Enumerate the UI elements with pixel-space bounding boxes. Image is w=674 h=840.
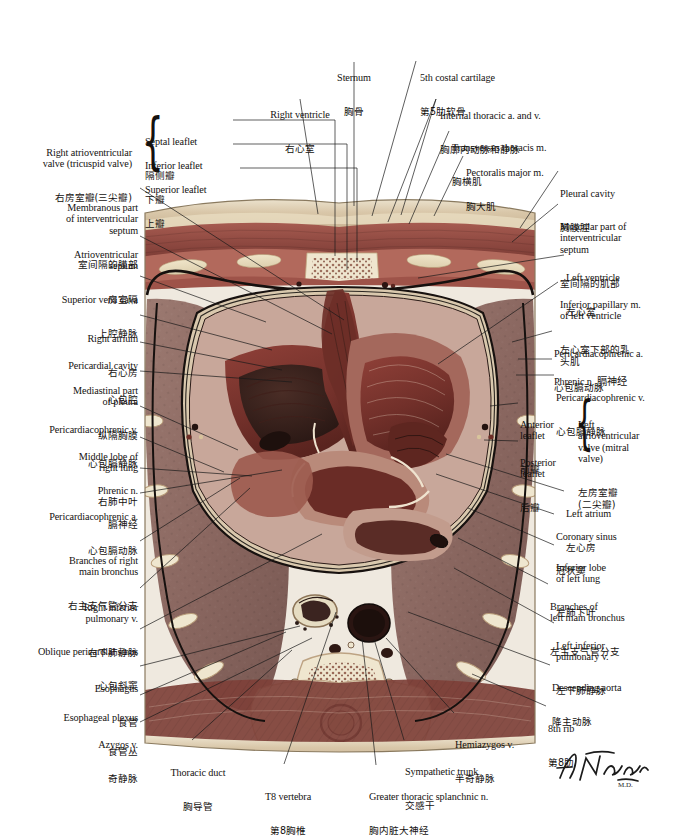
label-oblique-pericardial-sinus-en: Oblique pericardial sinus (0, 646, 138, 657)
label-pericardiacophrenic-a-left-en: Pericardiacophrenic a. (2, 511, 138, 522)
label-superior-leaflet: Superior leaflet 上瓣 (145, 161, 241, 252)
label-8th-rib-en: 8th rib (548, 723, 632, 734)
label-t8-vertebra-en: T8 vertebra (238, 791, 338, 802)
artist-signature: M.D. (556, 748, 652, 788)
label-descending-aorta-en: Descending aorta (552, 682, 674, 693)
label-azygos-v-en: Azygos v. (48, 739, 138, 750)
thorax-cross-section-illustration (139, 191, 541, 761)
label-thoracic-duct-en: Thoracic duct (148, 767, 248, 778)
hemiazygos-vein (381, 648, 393, 658)
label-superior-leaflet-en: Superior leaflet (145, 184, 241, 195)
label-posterior-leaflet-en: Posterior leaflet (520, 457, 570, 480)
label-sternum-en: Sternum (311, 72, 397, 83)
label-superior-vena-cava-en: Superior vena cava (10, 294, 138, 305)
label-right-ventricle-en: Right ventricle (252, 109, 348, 120)
label-inferior-papillary-m-en: Inferior papillary m. of left ventricle (560, 299, 674, 322)
label-azygos-v-cn: 奇静脉 (48, 773, 138, 784)
label-thoracic-duct-cn: 胸导管 (148, 801, 248, 812)
thoracic-duct (348, 642, 354, 648)
label-right-ventricle: Right ventricle 右心室 (252, 86, 348, 177)
label-superior-leaflet-cn: 上瓣 (145, 218, 241, 229)
anatomy-plate: { { Sternum 胸骨 Right ventricle 右心室 5th c… (0, 0, 674, 840)
label-right-av-valve-en: Right atrioventricular valve (tricuspid … (10, 147, 132, 170)
body-cross-section (139, 191, 541, 761)
label-left-av-valve-en: Left atrioventricular valve (mitral valv… (578, 419, 674, 465)
label-right-inferior-pulmonary-v-en: Right inferior pulmonary v. (28, 602, 138, 625)
label-azygos-v: Azygos v. 奇静脉 (48, 716, 138, 807)
label-5th-costal-cartilage-en: 5th costal cartilage (420, 72, 560, 83)
label-atrioventricular-septum-en: Atrioventricular septum (16, 249, 138, 272)
svg-text:M.D.: M.D. (618, 781, 633, 788)
label-thoracic-duct: Thoracic duct 胸导管 (148, 744, 248, 835)
label-t8-vertebra-cn: 第8胸椎 (238, 825, 338, 836)
label-t8-vertebra: T8 vertebra 第8胸椎 (238, 768, 338, 840)
label-branches-right-main-bronchus-en: Branches of right main bronchus (20, 555, 138, 578)
label-right-ventricle-cn: 右心室 (252, 143, 348, 154)
